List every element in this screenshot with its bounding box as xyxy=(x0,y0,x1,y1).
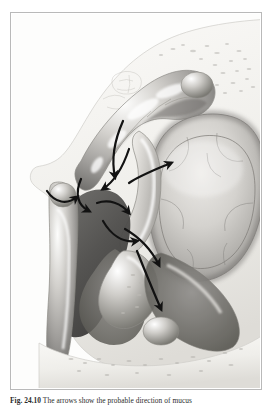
figure-number: Fig. 24.10 xyxy=(10,396,41,405)
figure-caption: Fig. 24.10 The arrows show the probable … xyxy=(10,396,264,407)
illustration-canvas xyxy=(11,13,261,389)
vestibule-bulb xyxy=(50,183,76,207)
figure-caption-text: The arrows show the probable direction o… xyxy=(43,396,192,405)
figure-frame xyxy=(10,12,262,390)
figure-page: Fig. 24.10 The arrows show the probable … xyxy=(0,0,274,407)
antrum-highlight xyxy=(163,141,243,197)
posterior-bulb xyxy=(143,317,179,345)
anatomical-illustration xyxy=(11,13,261,389)
anterior-turbinate-bulb xyxy=(181,72,213,98)
